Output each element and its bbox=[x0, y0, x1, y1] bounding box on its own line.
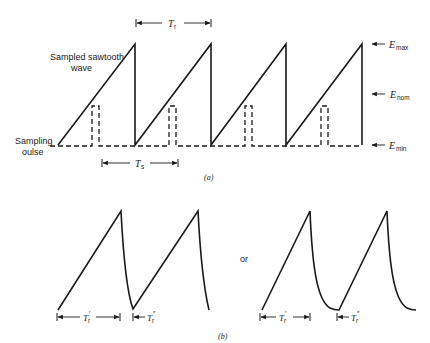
caption-b: (b) bbox=[218, 332, 228, 341]
figure-b-left: T r ′ T r ″ bbox=[57, 211, 209, 324]
svg-text:nom: nom bbox=[397, 94, 410, 101]
period-dimension: T r bbox=[136, 18, 211, 30]
rise-time-dimension-right: T r ′ bbox=[260, 310, 310, 324]
sawtooth-diagram: Sampled sawtooth wave Sampling oulse T r… bbox=[0, 0, 430, 343]
fall-time-dimension-right: T r ″ bbox=[337, 310, 360, 324]
figure-b-right: T r ′ T r ″ bbox=[260, 211, 416, 324]
svg-text:E: E bbox=[388, 39, 395, 50]
pulse-label: Sampling bbox=[15, 136, 53, 146]
svg-text:′: ′ bbox=[285, 310, 287, 317]
svg-text:r: r bbox=[356, 317, 359, 324]
figure-a: Sampled sawtooth wave Sampling oulse T r… bbox=[15, 18, 410, 182]
svg-text:r: r bbox=[152, 317, 155, 324]
caption-a: (a) bbox=[204, 173, 214, 182]
level-max: E max bbox=[372, 39, 409, 51]
pulse-label-2: oulse bbox=[22, 147, 44, 157]
rise-time-dimension: T r ′ bbox=[57, 310, 120, 324]
sawtooth-exponential-fall bbox=[262, 211, 416, 310]
svg-text:r: r bbox=[88, 317, 91, 324]
level-nom: E nom bbox=[372, 89, 410, 101]
svg-text:E: E bbox=[388, 140, 395, 151]
sample-dimension: T s bbox=[102, 158, 178, 170]
wave-label: Sampled sawtooth bbox=[50, 52, 124, 62]
svg-text:″: ″ bbox=[357, 310, 360, 317]
svg-text:″: ″ bbox=[153, 310, 156, 317]
svg-text:r: r bbox=[284, 317, 287, 324]
svg-text:′: ′ bbox=[89, 310, 91, 317]
svg-text:E: E bbox=[389, 89, 396, 100]
fall-time-dimension: T r ″ bbox=[133, 310, 156, 324]
svg-text:r: r bbox=[174, 23, 177, 30]
wave-label-2: wave bbox=[70, 63, 92, 73]
sampling-pulse-trace bbox=[50, 106, 362, 146]
level-min: E min bbox=[372, 140, 407, 152]
svg-text:min: min bbox=[396, 145, 407, 152]
or-connector: or bbox=[240, 254, 248, 264]
svg-text:s: s bbox=[141, 163, 145, 170]
sawtooth-fast-fall bbox=[58, 211, 209, 310]
svg-text:max: max bbox=[396, 44, 409, 51]
